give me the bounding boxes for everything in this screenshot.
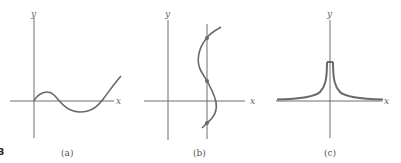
- panel-c: y x (c): [276, 9, 389, 158]
- panel-b-intersection-middle: [205, 79, 209, 83]
- panel-b-caption: (b): [193, 148, 206, 158]
- panel-b-curve: [198, 27, 221, 128]
- panel-a-curve: [34, 76, 121, 112]
- panel-c-caption: (c): [324, 148, 336, 158]
- panel-b-intersection-bottom: [205, 121, 209, 125]
- panel-b: y x (b): [144, 9, 255, 158]
- panel-c-x-label: x: [384, 96, 389, 106]
- panel-b-y-label: y: [164, 9, 171, 19]
- panel-b-x-label: x: [250, 96, 255, 106]
- panel-c-curve-left: [277, 62, 327, 100]
- figure-canvas: y x (a) y x (b) y x (c) 3: [0, 0, 401, 163]
- panel-b-intersection-top: [205, 36, 209, 40]
- panel-a-y-label: y: [30, 9, 37, 19]
- panel-a: y x (a): [10, 9, 121, 158]
- figure-number-fragment: 3: [0, 147, 4, 157]
- panel-c-y-label: y: [326, 9, 333, 19]
- panel-a-caption: (a): [61, 148, 73, 158]
- panel-a-x-label: x: [116, 96, 121, 106]
- panel-c-curve-right: [333, 62, 383, 100]
